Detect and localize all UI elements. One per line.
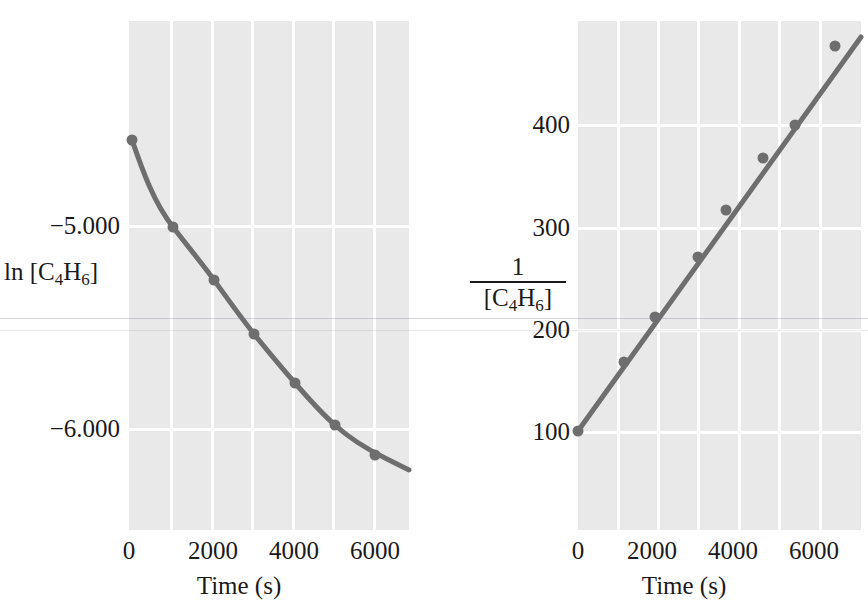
y-tick-label: −6.000 bbox=[0, 416, 120, 441]
chart-panel-left: −5.000 −6.000 ln [C4H6] 0 2000 4000 6000… bbox=[0, 0, 434, 608]
x-tick-label: 0 bbox=[99, 538, 159, 563]
x-tick-label: 4000 bbox=[698, 538, 768, 563]
y-axis-title-left: ln [C4H6] bbox=[4, 258, 98, 294]
x-tick-label: 6000 bbox=[340, 538, 410, 563]
x-tick-label: 0 bbox=[548, 538, 608, 563]
scan-artifact-line bbox=[0, 330, 868, 331]
x-tick-label: 6000 bbox=[779, 538, 849, 563]
scan-artifact-line bbox=[0, 318, 868, 319]
fraction-numerator: 1 bbox=[470, 254, 566, 283]
fraction-denominator: [C4H6] bbox=[470, 283, 566, 315]
series-markers-left bbox=[127, 135, 381, 461]
series-line-right bbox=[578, 21, 861, 530]
x-tick-label: 4000 bbox=[259, 538, 329, 563]
x-tick-label: 2000 bbox=[617, 538, 687, 563]
y-tick-label: 100 bbox=[434, 419, 570, 444]
chart-panel-right: 400 300 200 100 1 [C4H6] 0 2000 4000 600… bbox=[434, 0, 868, 608]
series-markers-right bbox=[573, 41, 841, 437]
plot-area-right bbox=[578, 21, 861, 530]
series-line-left bbox=[129, 21, 409, 530]
x-axis-title-right: Time (s) bbox=[614, 572, 754, 600]
x-axis-title-left: Time (s) bbox=[169, 572, 309, 600]
kinetics-figure: −5.000 −6.000 ln [C4H6] 0 2000 4000 6000… bbox=[0, 0, 868, 608]
x-tick-label: 2000 bbox=[178, 538, 248, 563]
y-axis-title-right: 1 [C4H6] bbox=[470, 254, 566, 315]
y-tick-label: −5.000 bbox=[0, 213, 120, 238]
y-tick-label: 400 bbox=[434, 112, 570, 137]
y-tick-label: 300 bbox=[434, 215, 570, 240]
plot-area-left bbox=[129, 21, 409, 530]
